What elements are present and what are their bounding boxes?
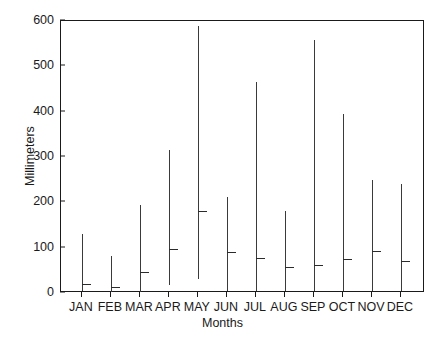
- mean-marker: [256, 258, 265, 259]
- x-axis-title: Months: [0, 316, 445, 330]
- mean-marker: [82, 284, 91, 285]
- mean-marker: [285, 267, 294, 268]
- x-tick-label-dec: DEC: [378, 300, 422, 314]
- x-tick-mark: [371, 292, 372, 297]
- x-tick-mark: [400, 292, 401, 297]
- range-bar: [198, 26, 199, 280]
- x-tick-mark: [139, 292, 140, 297]
- range-bar: [285, 211, 286, 290]
- range-bar: [227, 197, 228, 291]
- x-tick-mark: [81, 292, 82, 297]
- range-bar: [343, 114, 344, 291]
- range-bar: [256, 82, 257, 291]
- x-tick-mark: [168, 292, 169, 297]
- mean-marker: [111, 287, 120, 288]
- rainfall-range-chart: 0100200300400500600 JANFEBMARAPRMAYJUNJU…: [0, 0, 445, 340]
- mean-marker: [372, 251, 381, 252]
- mean-marker: [169, 249, 178, 250]
- plot-area: [60, 20, 424, 292]
- mean-marker: [343, 259, 352, 260]
- x-tick-mark: [284, 292, 285, 297]
- x-tick-mark: [197, 292, 198, 297]
- x-tick-mark: [255, 292, 256, 297]
- x-tick-mark: [226, 292, 227, 297]
- range-bar: [82, 234, 83, 291]
- x-tick-mark: [342, 292, 343, 297]
- range-bar: [140, 205, 141, 292]
- mean-marker: [401, 261, 410, 262]
- mean-marker: [198, 211, 207, 212]
- range-bar: [401, 184, 402, 291]
- range-bar: [314, 40, 315, 291]
- range-bar: [169, 150, 170, 285]
- range-bar: [372, 180, 373, 291]
- x-tick-mark: [313, 292, 314, 297]
- mean-marker: [314, 265, 323, 266]
- y-axis-title: Millimeters: [22, 20, 38, 292]
- x-tick-mark: [110, 292, 111, 297]
- mean-marker: [140, 272, 149, 273]
- mean-marker: [227, 252, 236, 253]
